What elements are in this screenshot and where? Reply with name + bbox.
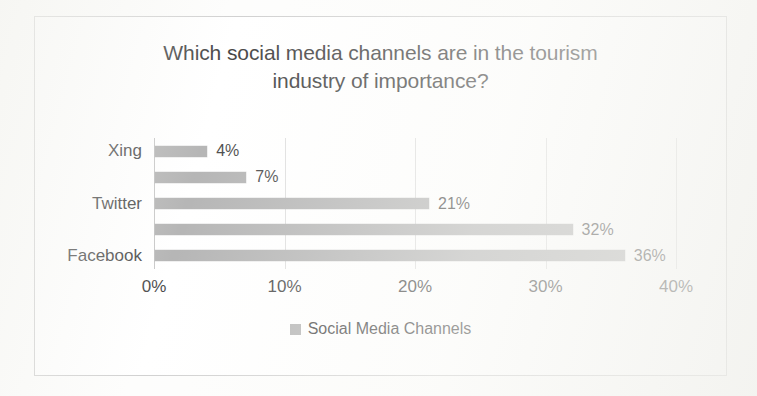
x-tick-label: 40% (659, 277, 693, 297)
chart-title-line-1: Which social media channels are in the t… (35, 39, 726, 67)
bar (155, 198, 429, 209)
bar-value-label: 4% (216, 142, 239, 160)
bar-value-label: 36% (634, 247, 666, 265)
bar (155, 224, 573, 235)
category-label: Facebook (67, 245, 142, 265)
bar-value-label: 21% (438, 194, 470, 212)
gridline (546, 138, 547, 269)
chart-legend: Social Media Channels (35, 320, 726, 338)
bar-value-label: 32% (582, 220, 614, 238)
gridline (676, 138, 677, 269)
x-tick-label: 30% (528, 277, 562, 297)
bar-row: 32% (155, 224, 573, 235)
bar (155, 250, 625, 261)
bar (155, 146, 207, 157)
chart-title: Which social media channels are in the t… (35, 39, 726, 94)
bar-row: 7% (155, 172, 246, 183)
x-tick-label: 0% (142, 277, 167, 297)
legend-color-swatch (290, 324, 301, 335)
legend-label: Social Media Channels (308, 320, 472, 338)
x-tick-label: 20% (398, 277, 432, 297)
bar-value-label: 7% (255, 168, 278, 186)
bar (155, 172, 246, 183)
category-label: Twitter (92, 193, 142, 213)
chart-title-line-2: industry of importance? (35, 67, 726, 95)
plot-area: Xing4%7%Twitter21%32%Facebook36% 0%10%20… (154, 138, 676, 269)
bar-row: Facebook36% (155, 250, 625, 261)
bar-row: Twitter21% (155, 198, 429, 209)
category-label: Xing (108, 141, 142, 161)
chart-container: Which social media channels are in the t… (34, 16, 727, 376)
x-tick-label: 10% (267, 277, 301, 297)
bar-row: Xing4% (155, 146, 207, 157)
